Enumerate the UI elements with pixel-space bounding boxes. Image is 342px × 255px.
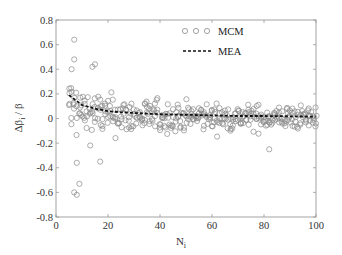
mcm-data-point xyxy=(267,147,272,152)
x-tick-label: 0 xyxy=(53,220,58,231)
mcm-data-point xyxy=(126,118,131,123)
mcm-data-point xyxy=(256,102,261,107)
mcm-data-point xyxy=(171,107,176,112)
mcm-data-point xyxy=(105,120,110,125)
y-tick-label: 0.2 xyxy=(40,88,53,99)
legend-label-mcm: MCM xyxy=(218,26,244,37)
mcm-data-point xyxy=(251,129,256,134)
mcm-data-point xyxy=(74,160,79,165)
mcm-data-point xyxy=(176,105,181,110)
x-axis-label: Ni xyxy=(176,235,187,250)
mcm-data-point xyxy=(72,57,77,62)
mcm-data-point xyxy=(84,125,89,130)
chart-figure: 020406080100 0.80.60.40.20-0.2-0.4-0.6-0… xyxy=(0,0,342,255)
x-tick-label: 100 xyxy=(308,220,324,231)
mcm-data-point xyxy=(173,129,178,134)
mcm-data-point xyxy=(72,37,77,42)
mcm-data-point xyxy=(105,98,110,103)
mcm-data-point xyxy=(74,132,79,137)
mcm-data-point xyxy=(215,134,220,139)
mcm-data-point xyxy=(98,159,103,164)
x-tick-label: 80 xyxy=(259,220,270,231)
mcm-data-point xyxy=(246,102,251,107)
x-tick-label: 20 xyxy=(103,220,114,231)
mcm-data-point xyxy=(69,115,74,120)
legend-mcm-marker-icon xyxy=(182,28,187,33)
mcm-data-point xyxy=(107,103,112,108)
mcm-data-point xyxy=(85,95,90,100)
mcm-data-point xyxy=(246,122,251,127)
x-tick-label: 60 xyxy=(207,220,218,231)
mcm-data-point xyxy=(204,102,209,107)
y-tick-label: 0.8 xyxy=(40,15,53,26)
y-tick-label: -0.6 xyxy=(36,187,53,198)
legend-mcm-marker-icon xyxy=(204,28,209,33)
y-tick-label: 0.4 xyxy=(40,64,54,75)
mcm-data-point xyxy=(109,90,114,95)
mcm-data-point xyxy=(89,127,94,132)
mcm-data-point xyxy=(110,97,115,102)
legend-label-mea: MEA xyxy=(218,46,242,57)
legend: MCM MEA xyxy=(182,26,244,57)
y-tick-label: -0.2 xyxy=(36,138,53,149)
mcm-data-point xyxy=(280,109,285,114)
y-tick-label: -0.4 xyxy=(36,162,53,173)
mcm-data-point xyxy=(113,136,118,141)
mcm-data-point xyxy=(69,122,74,127)
mcm-data-point xyxy=(165,102,170,107)
mcm-data-point xyxy=(201,127,206,132)
mcm-data-point xyxy=(165,131,170,136)
mcm-data-point xyxy=(119,125,124,130)
mcm-data-point xyxy=(69,67,74,72)
y-tick-label: 0.6 xyxy=(40,39,53,50)
legend-mcm-marker-icon xyxy=(193,28,198,33)
y-tick-label: 0 xyxy=(48,113,53,124)
mcm-data-point xyxy=(254,103,259,108)
legend-item-mcm: MCM xyxy=(182,26,244,37)
x-tick-label: 40 xyxy=(155,220,166,231)
mcm-data-point xyxy=(184,97,189,102)
mcm-data-point xyxy=(88,143,93,148)
mcm-data-point xyxy=(306,106,311,111)
mcm-data-point xyxy=(77,181,82,186)
mcm-scatter-points xyxy=(67,37,320,197)
mcm-data-point xyxy=(298,103,303,108)
legend-item-mea: MEA xyxy=(183,46,242,57)
y-tick-label: -0.8 xyxy=(36,212,53,223)
mcm-data-point xyxy=(256,131,261,136)
y-axis-label: Δβi / β xyxy=(12,103,27,132)
mcm-data-point xyxy=(92,119,97,124)
mcm-data-point xyxy=(226,107,231,112)
